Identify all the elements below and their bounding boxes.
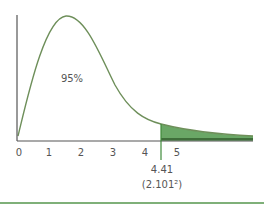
critical-value-label: 4.41 (151, 164, 173, 175)
density-curve (18, 16, 253, 136)
center-percent-annotation: 95% (61, 73, 83, 84)
critical-value-sublabel: (2.101²) (142, 179, 183, 190)
x-tick-label: 1 (46, 147, 52, 158)
x-tick-label: 2 (78, 147, 84, 158)
x-tick-label: 5 (174, 147, 180, 158)
x-tick-label: 0 (16, 147, 22, 158)
x-tick-label: 4 (142, 147, 148, 158)
x-tick-label: 3 (110, 147, 116, 158)
f-distribution-chart: 0 1 2 3 4 5 95% 4.41 (2.101²) (0, 0, 264, 205)
